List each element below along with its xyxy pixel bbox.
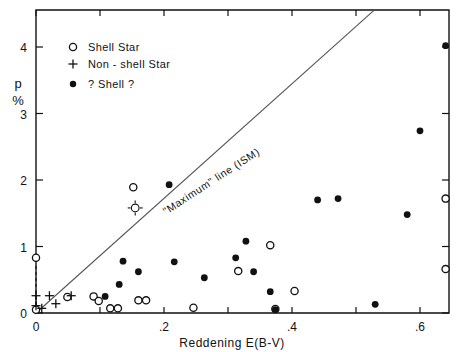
data-point-filled-circle (243, 238, 250, 245)
data-point-filled-circle (232, 254, 239, 261)
y-tick-label: 3 (20, 108, 27, 122)
y-tick-label: 0 (20, 307, 27, 321)
data-point-filled-circle (404, 211, 411, 218)
data-point-open-circle (267, 242, 274, 249)
data-point-filled-circle (442, 42, 449, 49)
data-point-filled-circle (417, 127, 424, 134)
data-point-filled-circle (272, 306, 279, 313)
data-point-open-circle (135, 297, 142, 304)
data-point-filled-circle (135, 268, 142, 275)
data-point-plus (51, 299, 60, 308)
data-point-filled-circle (166, 181, 173, 188)
data-point-filled-circle (335, 195, 342, 202)
legend-label-non-shell-star: Non - shell Star (88, 58, 170, 70)
y-axis-title-percent: % (12, 93, 24, 108)
legend: Shell Star Non - shell Star ? Shell ? (69, 41, 171, 90)
figure-scatter-polarization-vs-reddening: 0.2.4.6 01234 "Maximum" line (ISM) p % R… (0, 0, 460, 352)
data-point-open-circle (130, 184, 137, 191)
legend-label-question-shell: ? Shell ? (88, 78, 134, 90)
x-axis-tick-labels: 0.2.4.6 (33, 320, 426, 334)
data-point-filled-circle (120, 258, 127, 265)
data-point-plus (32, 291, 41, 300)
data-point-filled-circle (201, 274, 208, 281)
data-point-open-circle (235, 268, 242, 275)
data-point-open-circle (32, 254, 39, 261)
data-point-open-circle (107, 305, 114, 312)
data-point-filled-circle (171, 258, 178, 265)
data-point-open-circle (95, 297, 102, 304)
data-point-filled-circle (116, 281, 123, 288)
data-point-filled-circle (267, 288, 274, 295)
data-point-open-circle (64, 293, 71, 300)
y-tick-label: 1 (20, 241, 27, 255)
x-tick-label: .4 (287, 320, 297, 334)
y-tick-label: 2 (20, 174, 27, 188)
data-point-filled-circle (250, 268, 257, 275)
data-point-open-circle (142, 297, 149, 304)
legend-label-shell-star: Shell Star (88, 41, 140, 53)
legend-marker-plus (69, 60, 78, 69)
x-axis-ticks (36, 10, 420, 313)
data-point-circled-star (128, 200, 143, 215)
y-axis-title-p: p (14, 76, 21, 91)
x-axis-title: Reddening E(B-V) (179, 336, 284, 350)
data-point-open-circle (114, 305, 121, 312)
legend-marker-filled-circle (70, 81, 76, 87)
data-point-filled-circle (102, 293, 109, 300)
data-point-filled-circle (372, 301, 379, 308)
plot-canvas: 0.2.4.6 01234 "Maximum" line (ISM) p % R… (0, 0, 460, 352)
x-tick-label: 0 (33, 320, 40, 334)
data-point-open-circle (442, 195, 449, 202)
x-tick-label: .2 (159, 320, 169, 334)
data-point-filled-circle (314, 197, 321, 204)
data-point-open-circle (442, 266, 449, 273)
data-point-open-circle (190, 304, 197, 311)
y-tick-label: 4 (20, 41, 27, 55)
x-tick-label: .6 (415, 320, 425, 334)
legend-marker-open-circle (69, 43, 76, 50)
maximum-line-ism (36, 10, 374, 313)
data-point-open-circle (291, 287, 298, 294)
